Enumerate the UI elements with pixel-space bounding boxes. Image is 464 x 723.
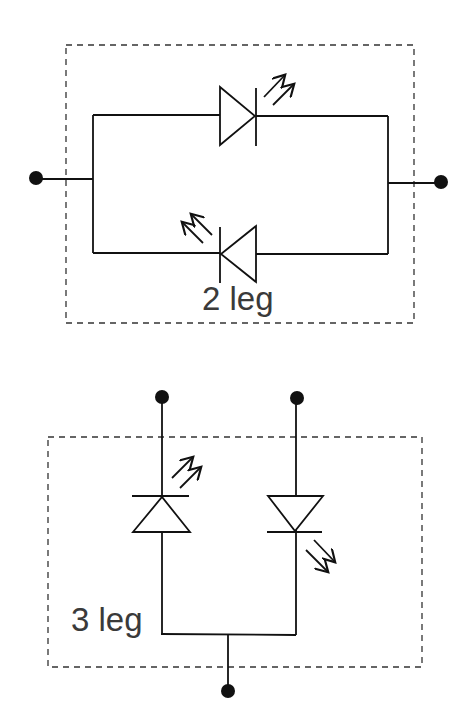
diagram-label: 2 leg [202,280,274,317]
wires [36,115,441,254]
wires [161,397,296,691]
led-left-icon [132,458,200,532]
three-leg-diagram: 3 leg [48,390,422,698]
terminal-right-icon [434,175,448,189]
terminal-left-icon [29,171,43,185]
led-top-icon [220,76,293,146]
terminal-common-icon [221,684,235,698]
led-right-icon [267,496,334,571]
led-diagrams: 2 leg 3 leg [0,0,464,723]
terminal-right-icon [290,391,304,405]
diagram-label: 3 leg [71,601,143,638]
two-leg-diagram: 2 leg [29,45,448,323]
terminal-left-icon [155,390,169,404]
led-bottom-icon [183,215,256,283]
